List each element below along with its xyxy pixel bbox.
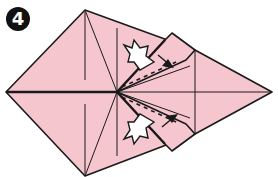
origami-diagram	[0, 0, 278, 177]
step-number-badge: 4	[6, 7, 30, 31]
